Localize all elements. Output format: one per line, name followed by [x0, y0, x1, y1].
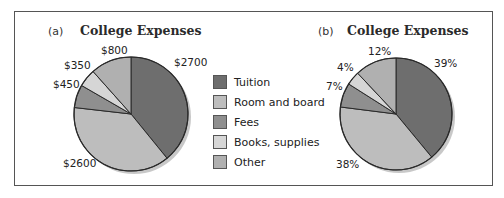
slice-label-books-b: 4% [337, 61, 354, 73]
slice-label-other-b: 12% [368, 45, 391, 57]
slice-label-room-b: 38% [336, 158, 359, 170]
slice-label-fees-b: 7% [326, 80, 343, 92]
pie-chart-b [0, 0, 504, 198]
slice-label-tuition-b: 39% [434, 57, 457, 69]
